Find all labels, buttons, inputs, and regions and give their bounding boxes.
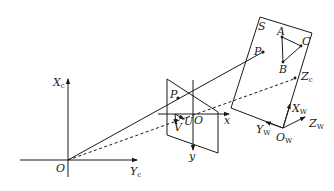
world-origin-label: OW [276,131,293,145]
camera-model-diagram: Xc Yc O P O U V x y S P A B C Zc [0,0,334,191]
pixel-v-label: V [174,121,183,134]
world-z-axis-label: ZW [308,117,325,131]
object-plane-label: S [258,20,266,33]
image-x-axis-label: x [224,114,231,127]
triangle-label-c: C [302,35,311,48]
image-point-p-label: P [169,88,178,101]
triangle-abc [282,37,301,62]
triangle-label-b: B [278,63,287,76]
world-y-axis-label: YW [256,123,271,137]
optical-axis-point [294,77,297,80]
world-y-axis [266,122,283,128]
pixel-u-axis [175,114,184,119]
camera-x-axis-label: Xc [52,76,65,90]
world-x-axis [283,104,290,128]
triangle-label-a: A [276,25,285,38]
image-y-axis-label: y [188,150,196,163]
object-point-p [261,50,264,53]
camera-frame: Xc Yc O [20,76,141,179]
projection-ray [68,52,263,160]
camera-origin-label: O [56,162,65,175]
world-x-axis-label: XW [291,102,308,116]
pixel-u-label: U [184,115,194,128]
image-origin-label: O [194,114,203,127]
camera-y-axis-label: Yc [130,165,141,179]
image-plane: P O U V x y [158,79,231,163]
camera-z-axis-label: Zc [300,70,313,84]
world-frame: XW ZW YW OW [256,102,325,145]
object-point-p-label: P [253,45,262,58]
